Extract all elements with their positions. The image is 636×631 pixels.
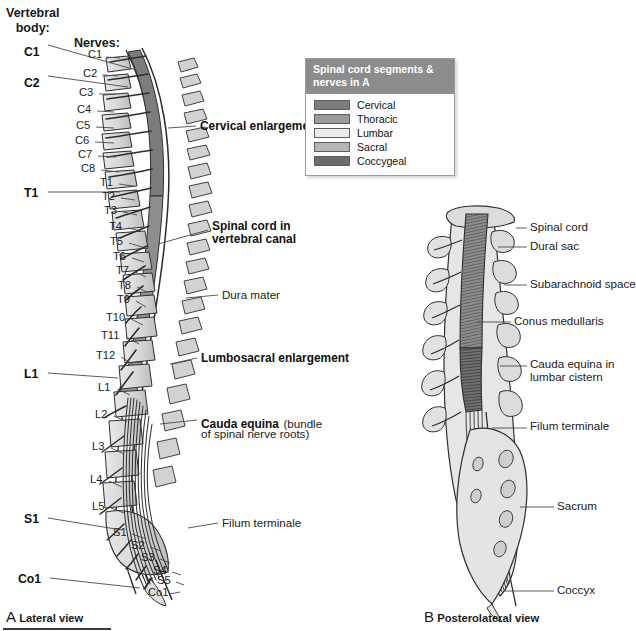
legend-label-thoracic: Thoracic: [357, 114, 398, 125]
caption-panel-a-letter: A: [6, 608, 16, 625]
vertebral-label-l1: L1: [24, 367, 38, 381]
nerve-label-t9: T9: [117, 293, 130, 306]
nerve-label-t3: T3: [104, 204, 117, 217]
vertebral-label-c2: C2: [24, 76, 40, 90]
callout-cauda-equina-lumbar-cistern-line2: lumbar cistern: [530, 370, 603, 384]
nerve-label-t2: T2: [102, 190, 115, 203]
nerve-label-t6: T6: [113, 250, 126, 263]
legend-title-line1: Spinal cord segments &: [313, 63, 434, 75]
vertebral-body-header-line2: body:: [16, 21, 50, 35]
nerve-label-t4: T4: [109, 220, 122, 233]
nerve-label-c2: C2: [83, 67, 97, 80]
vertebral-label-co1: Co1: [18, 572, 41, 586]
callout-conus-medullaris: Conus medullaris: [514, 314, 604, 328]
callout-dural-sac: Dural sac: [530, 239, 579, 253]
nerve-label-c4: C4: [77, 103, 91, 116]
callout-coccyx: Coccyx: [557, 583, 595, 597]
panel-b-artwork: [422, 206, 554, 622]
vertebral-label-c1: C1: [24, 45, 40, 59]
legend-item-sacral: Sacral: [314, 141, 448, 154]
legend-item-thoracic: Thoracic: [314, 113, 448, 126]
caption-panel-a-text: Lateral view: [19, 612, 83, 624]
sacrum-b: [457, 428, 527, 604]
legend-label-cervical: Cervical: [357, 100, 395, 111]
callout-spinal-cord-in-vertebral-canal-line1: Spinal cord in: [212, 219, 291, 233]
nerve-label-l2: L2: [95, 408, 107, 421]
legend-title: Spinal cord segments & nerves in A: [306, 59, 454, 94]
callout-cervical-enlargement: Cervical enlargement: [200, 119, 320, 133]
nerve-label-l5: L5: [92, 500, 104, 513]
nerve-label-t7: T7: [116, 264, 129, 277]
nerve-label-s1: S1: [113, 526, 127, 539]
vertebral-body-header-line1: Vertebral: [6, 6, 60, 20]
callout-sacrum: Sacrum: [557, 499, 597, 513]
nerve-label-co1: Co1: [148, 586, 169, 599]
nerve-label-t1: T1: [100, 176, 113, 189]
nerve-label-l1: L1: [98, 381, 110, 394]
caption-panel-a: A Lateral view: [6, 608, 83, 625]
nerve-label-c1: C1: [88, 48, 102, 61]
vertebral-label-t1: T1: [24, 186, 38, 200]
callout-subarachnoid-space: Subarachnoid space: [530, 277, 636, 291]
callout-dura-mater: Dura mater: [222, 288, 280, 302]
legend-swatch-lumbar: [314, 128, 350, 138]
nerve-label-l3: L3: [92, 440, 104, 453]
nerve-label-t10: T10: [106, 311, 125, 324]
legend-title-line2: nerves in A: [313, 76, 370, 88]
legend-item-cervical: Cervical: [314, 99, 448, 112]
callout-filum-terminale-b: Filum terminale: [530, 419, 609, 433]
callout-cauda-equina-paren2: of spinal nerve roots): [201, 427, 309, 441]
nerve-label-c3: C3: [79, 86, 93, 99]
caption-panel-b-text: Posterolateral view: [437, 612, 539, 624]
legend-label-coccygeal: Coccygeal: [357, 156, 406, 167]
legend-label-sacral: Sacral: [357, 142, 387, 153]
nerve-label-t8: T8: [118, 279, 131, 292]
panel-a-artwork: [48, 45, 218, 606]
nerve-label-c7: C7: [78, 148, 92, 161]
nerve-label-l4: L4: [90, 473, 102, 486]
callout-lumbosacral-enlargement: Lumbosacral enlargement: [201, 351, 349, 365]
legend-item-lumbar: Lumbar: [314, 127, 448, 140]
legend-swatch-cervical: [314, 100, 350, 110]
legend-item-coccygeal: Coccygeal: [314, 155, 448, 168]
vertebral-label-s1: S1: [24, 512, 39, 526]
legend-label-lumbar: Lumbar: [357, 128, 393, 139]
nerve-label-t12: T12: [96, 349, 115, 362]
callout-filum-terminale-a: Filum terminale: [222, 516, 301, 530]
caption-panel-b-letter: B: [424, 608, 434, 625]
legend-swatch-thoracic: [314, 114, 350, 124]
legend-swatch-coccygeal: [314, 156, 350, 166]
nerve-label-s3: S3: [141, 551, 155, 564]
vertebral-body-header: Vertebral body:: [6, 6, 60, 36]
callout-spinal-cord-b: Spinal cord: [530, 220, 588, 234]
legend-items: Cervical Thoracic Lumbar Sacral Coccygea…: [306, 94, 454, 175]
legend-swatch-sacral: [314, 142, 350, 152]
nerve-label-c6: C6: [75, 134, 89, 147]
callout-cauda-equina-lumbar-cistern-line1: Cauda equina in: [530, 357, 614, 371]
nerve-label-t11: T11: [101, 329, 119, 342]
legend-box: Spinal cord segments & nerves in A Cervi…: [305, 58, 455, 176]
caption-panel-b: B Posterolateral view: [424, 608, 539, 625]
nerve-label-c5: C5: [76, 119, 90, 132]
nerve-label-t5: T5: [110, 235, 123, 248]
bottom-rule: [3, 628, 111, 630]
nerve-label-c8: C8: [81, 162, 95, 175]
callout-spinal-cord-in-vertebral-canal-line2: vertebral canal: [212, 232, 296, 246]
